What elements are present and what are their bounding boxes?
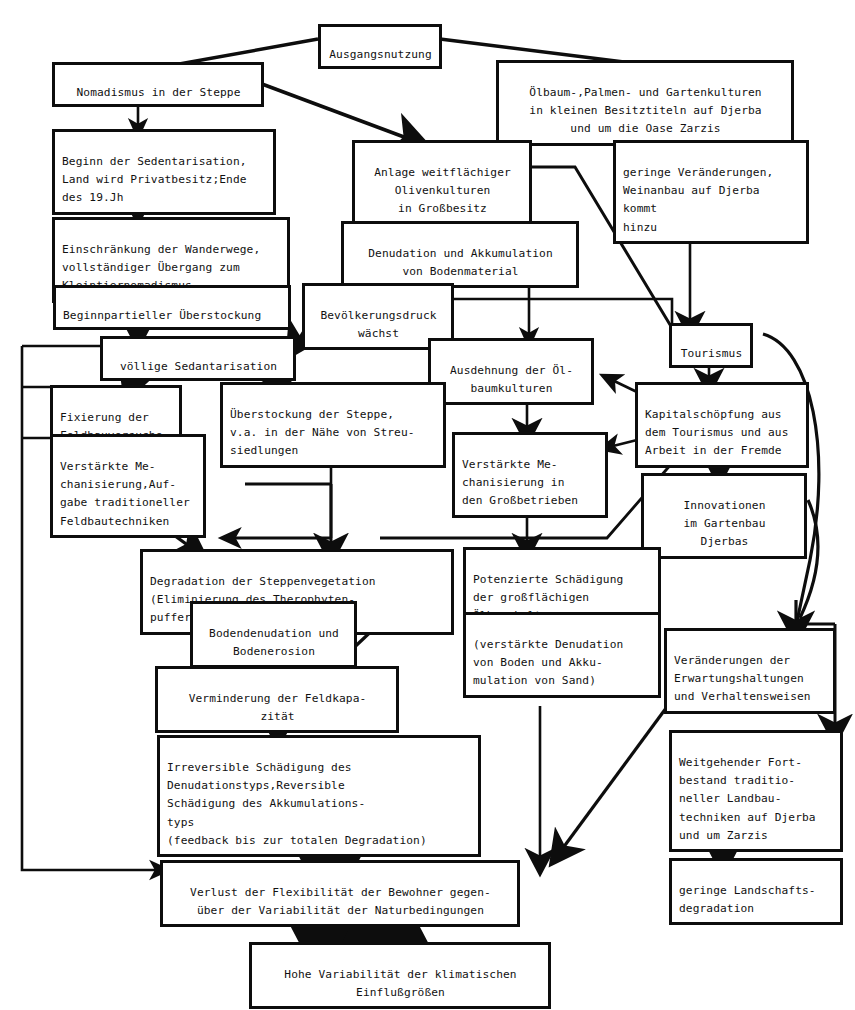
node-label: völlige Sedantarisation — [120, 360, 277, 373]
node-label: Verstärkte Me- chanisierung,Auf- gabe tr… — [60, 460, 190, 527]
node-label: Hohe Variabilität der klimatischen Einfl… — [284, 968, 516, 999]
node-weitgehender-fortbestand[interactable]: Weitgehender Fort- bestand traditio- nel… — [669, 730, 843, 852]
node-label: Anlage weitflächiger Olivenkulturen in G… — [374, 166, 511, 215]
node-label: Nomadismus in der Steppe — [76, 86, 240, 99]
node-ausgangsnutzung[interactable]: Ausgangsnutzung — [318, 24, 442, 69]
node-label: Ölbaum-,Palmen- und Gartenkulturen in kl… — [529, 86, 761, 135]
node-kapitalschoepfung[interactable]: Kapitalschöpfung aus dem Tourismus und a… — [635, 382, 809, 468]
node-label: Verminderung der Feldkapa- zität — [189, 692, 367, 723]
node-geringe-landschaftsdegradation[interactable]: geringe Landschafts- degradation — [669, 858, 843, 925]
node-label: Tourismus — [681, 347, 743, 360]
node-verstaerkte-denudation[interactable]: (verstärkte Denudation von Boden und Akk… — [463, 612, 661, 698]
node-verlust-flexibilitaet[interactable]: Verlust der Flexibilität der Bewohner ge… — [160, 860, 520, 927]
node-label: Veränderungen der Erwartungshaltungen un… — [674, 654, 811, 703]
node-hohe-variabilitaet[interactable]: Hohe Variabilität der klimatischen Einfl… — [249, 942, 551, 1009]
node-oelbaum-palmen-gartenkulturen[interactable]: Ölbaum-,Palmen- und Gartenkulturen in kl… — [496, 60, 794, 146]
node-label: geringe Veränderungen, Weinanbau auf Dje… — [623, 166, 773, 233]
node-label: Kapitalschöpfung aus dem Tourismus und a… — [645, 408, 789, 457]
node-denudation-akkumulation[interactable]: Denudation und Akkumulation von Bodenmat… — [341, 221, 579, 288]
node-label: (verstärkte Denudation von Boden und Akk… — [473, 638, 623, 687]
node-ausdehnung-oelbaumkulturen[interactable]: Ausdehnung der Öl- baumkulturen — [428, 338, 594, 405]
node-verminderung-feldkapazitaet[interactable]: Verminderung der Feldkapa- zität — [155, 666, 399, 733]
node-label: geringe Landschafts- degradation — [679, 884, 816, 915]
node-label: Beginnpartieller Überstockung — [63, 309, 261, 322]
flowchart-canvas: Ausgangsnutzung Nomadismus in der Steppe… — [0, 0, 855, 1010]
node-voellige-sedantarisation[interactable]: völlige Sedantarisation — [100, 336, 296, 381]
node-verstaerkte-mechanisierung-grossbetriebe[interactable]: Verstärkte Me- chanisierung in den Großb… — [452, 432, 608, 518]
node-ueberstockung-steppe[interactable]: Überstockung der Steppe, v.a. in der Näh… — [220, 382, 446, 468]
node-anlage-olivenkulturen[interactable]: Anlage weitflächiger Olivenkulturen in G… — [352, 140, 532, 226]
node-label: Denudation und Akkumulation von Bodenmat… — [368, 247, 553, 278]
node-label: Innovationen im Gartenbau Djerbas — [683, 499, 765, 548]
node-nomadismus[interactable]: Nomadismus in der Steppe — [52, 62, 264, 107]
node-label: Weitgehender Fort- bestand traditio- nel… — [679, 756, 816, 842]
node-geringe-veraenderungen[interactable]: geringe Veränderungen, Weinanbau auf Dje… — [613, 140, 809, 244]
node-beginn-partieller-ueberstockung[interactable]: Beginnpartieller Überstockung — [53, 285, 291, 330]
node-label: Bevölkerungsdruck wächst — [320, 309, 436, 340]
node-label: Verstärkte Me- chanisierung in den Großb… — [462, 458, 578, 507]
node-label: Beginn der Sedentarisation, Land wird Pr… — [62, 155, 247, 204]
node-label: Überstockung der Steppe, v.a. in der Näh… — [230, 408, 415, 457]
node-label: Ausgangsnutzung — [329, 48, 432, 61]
node-tourismus[interactable]: Tourismus — [669, 323, 753, 368]
node-bodendenudation-bodenerosion[interactable]: Bodendenudation und Bodenerosion — [190, 601, 357, 668]
node-beginn-sedentarisation[interactable]: Beginn der Sedentarisation, Land wird Pr… — [52, 129, 276, 215]
node-irreversible-schaedigung[interactable]: Irreversible Schädigung des Denudationst… — [157, 735, 481, 857]
node-label: Bodendenudation und Bodenerosion — [209, 627, 339, 658]
node-label: Irreversible Schädigung des Denudationst… — [167, 761, 427, 847]
node-label: Verlust der Flexibilität der Bewohner ge… — [190, 886, 491, 917]
node-label: Ausdehnung der Öl- baumkulturen — [450, 364, 573, 395]
node-verstaerkte-mechanisierung-aufgabe[interactable]: Verstärkte Me- chanisierung,Auf- gabe tr… — [50, 434, 206, 538]
node-veraenderungen-erwartungshaltungen[interactable]: Veränderungen der Erwartungshaltungen un… — [664, 628, 836, 714]
node-innovationen-gartenbau[interactable]: Innovationen im Gartenbau Djerbas — [641, 473, 807, 559]
